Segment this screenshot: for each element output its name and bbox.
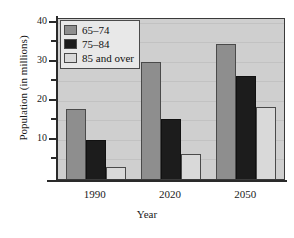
bar-2050-series-1 <box>236 76 256 179</box>
legend-item: 65–74 <box>64 23 134 37</box>
legend-label: 85 and over <box>82 53 134 64</box>
bar-chart-figure: 10203040 199020202050 Population (in mil… <box>0 0 294 238</box>
y-tick-major <box>49 21 58 23</box>
y-tick-minor <box>51 118 58 120</box>
legend-item: 85 and over <box>64 51 134 65</box>
x-tick-label-2050: 2050 <box>222 188 268 200</box>
y-tick-minor <box>51 79 58 81</box>
y-tick-minor <box>51 157 58 159</box>
bar-1990-series-0 <box>66 109 86 179</box>
bar-2020-series-2 <box>181 154 201 179</box>
legend: 65–7475–8485 and over <box>60 20 140 69</box>
bar-2020-series-0 <box>141 62 161 179</box>
x-tick-label-1990: 1990 <box>72 188 118 200</box>
x-axis-line <box>47 180 287 182</box>
bar-2050-series-2 <box>256 107 276 179</box>
legend-swatch-icon <box>64 39 77 49</box>
bar-1990-series-1 <box>86 140 106 179</box>
legend-label: 75–84 <box>82 39 110 50</box>
y-tick-minor <box>51 40 58 42</box>
x-axis-title: Year <box>0 208 294 220</box>
y-tick-major <box>49 60 58 62</box>
legend-swatch-icon <box>64 25 77 35</box>
y-tick-major <box>49 138 58 140</box>
y-tick-major <box>49 99 58 101</box>
legend-label: 65–74 <box>82 25 110 36</box>
x-tick-label-2020: 2020 <box>147 188 193 200</box>
bar-1990-series-2 <box>106 167 126 179</box>
y-axis-title: Population (in millions) <box>17 13 29 163</box>
legend-item: 75–84 <box>64 37 134 51</box>
legend-swatch-icon <box>64 53 77 63</box>
bar-2050-series-0 <box>216 44 236 179</box>
bar-2020-series-1 <box>161 119 181 179</box>
